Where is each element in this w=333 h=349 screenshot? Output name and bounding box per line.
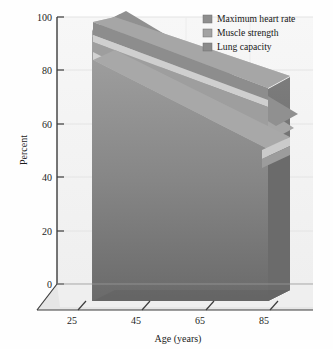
legend-label-muscle-strength: Muscle strength <box>217 27 279 38</box>
y-tick-0: 0 <box>47 279 52 290</box>
chart-container: 100 80 60 40 20 0 Percent 25 45 6 <box>0 0 333 349</box>
chart-svg: 100 80 60 40 20 0 Percent 25 45 6 <box>0 0 333 349</box>
x-tick-45: 45 <box>131 315 141 326</box>
legend-label-maximum-heart-rate: Maximum heart rate <box>217 13 295 24</box>
x-tick-labels: 25 45 65 85 <box>67 315 269 326</box>
x-tick-25: 25 <box>67 315 77 326</box>
x-tick-85: 85 <box>259 315 269 326</box>
legend-swatch-maximum-heart-rate <box>203 15 212 23</box>
legend-swatch-lung-capacity <box>203 43 212 51</box>
legend-label-lung-capacity: Lung capacity <box>217 41 272 52</box>
y-tick-60: 60 <box>42 119 52 130</box>
legend-item-maximum-heart-rate[interactable]: Maximum heart rate <box>203 13 295 24</box>
x-tick-65: 65 <box>195 315 205 326</box>
y-tick-80: 80 <box>42 65 52 76</box>
y-tick-labels: 100 80 60 40 20 0 <box>37 12 52 290</box>
y-tick-20: 20 <box>42 226 52 237</box>
x-axis-title: Age (years) <box>155 333 202 345</box>
y-tick-40: 40 <box>42 172 52 183</box>
y-tick-100: 100 <box>37 12 52 23</box>
y-axis-title: Percent <box>18 135 29 165</box>
legend-swatch-muscle-strength <box>203 29 212 37</box>
y-axis-title-group: Percent <box>18 135 29 165</box>
